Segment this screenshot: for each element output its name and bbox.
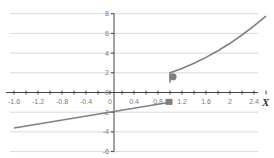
x-tick-label: 0: [108, 98, 112, 105]
x-tick-label: 1.2: [177, 98, 187, 105]
x-tick-label: 2.4: [249, 98, 259, 105]
y-tick-label: -6: [103, 148, 109, 155]
x-tick-label: 1.6: [201, 98, 211, 105]
series-line-left-piece: [14, 102, 170, 128]
open-endpoint-marker: [166, 99, 172, 104]
x-tick-label: -0.8: [56, 98, 68, 105]
gridlines: [10, 14, 258, 152]
endpoint-markers: [166, 73, 177, 104]
y-tick-label: 8: [105, 10, 109, 17]
x-tick-label: -1.6: [8, 98, 20, 105]
x-tick-label: -0.4: [80, 98, 92, 105]
y-tick-label: 6: [105, 30, 109, 37]
axes: [6, 14, 266, 152]
x-tick-label: -1.2: [32, 98, 44, 105]
piecewise-function-chart: -1.6-1.2-0.8-0.400.40.81.21.622.4 -6-4-2…: [0, 0, 274, 158]
x-tick-labels: -1.6-1.2-0.8-0.400.40.81.21.622.4: [8, 98, 259, 105]
y-tick-label: 2: [105, 69, 109, 76]
y-tick-labels: -6-4-202468: [103, 10, 109, 155]
x-axis-title: X: [261, 96, 270, 108]
y-tick-label: 0: [105, 89, 109, 96]
y-tick-label: 4: [105, 50, 109, 57]
x-tick-label: 2: [228, 98, 232, 105]
x-tick-label: 0.4: [129, 98, 139, 105]
y-tick-label: -4: [103, 128, 109, 135]
closed-endpoint-marker: [169, 73, 176, 80]
series-lines: [14, 16, 266, 128]
